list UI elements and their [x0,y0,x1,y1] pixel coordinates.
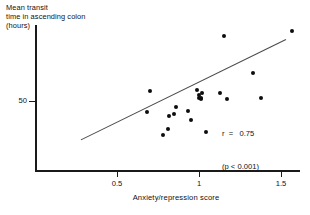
data-point [251,71,255,75]
data-point [189,118,193,122]
x-tick [199,172,200,177]
data-point [145,110,149,114]
data-point [172,112,176,116]
y-axis-title: Mean transit time in ascending colon (ho… [6,3,86,31]
x-tick [281,172,282,177]
data-point [259,96,263,100]
data-point [186,109,190,113]
scatter-plot-figure: Mean transit time in ascending colon (ho… [0,0,310,215]
x-tick [117,172,118,177]
x-tick-label: 1.5 [266,179,296,188]
y-tick-label: 50 [9,96,27,105]
correlation-coefficient-text: r = 0.75 [222,128,259,139]
data-point [218,91,222,95]
y-tick [29,101,35,102]
x-tick-label: 1 [184,179,214,188]
data-point [167,114,171,118]
data-point [290,29,294,33]
regression-line [0,0,310,215]
data-point [195,88,199,92]
data-point [199,96,203,100]
x-axis-title: Anxiety/repression score [133,193,220,202]
data-point [174,105,178,109]
x-axis-title-wrap: Anxiety/repression score [0,193,310,202]
y-axis-line [35,25,37,172]
data-point [204,130,208,134]
data-point [200,91,204,95]
data-point [161,133,165,137]
data-point [222,34,226,38]
statistics-annotation: r = 0.75 (p < 0.001) [222,106,259,194]
data-point [225,97,229,101]
x-axis-line [35,170,300,172]
x-tick-label: 0.5 [102,179,132,188]
data-point [148,89,152,93]
p-value-text: (p < 0.001) [222,161,259,172]
data-point [166,127,170,131]
